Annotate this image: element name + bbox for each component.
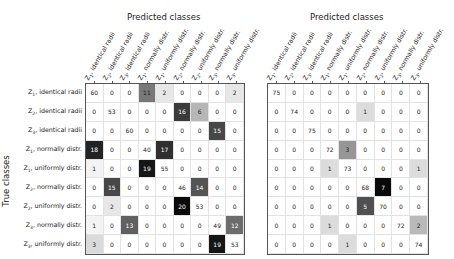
matrix-cell: 0 bbox=[191, 235, 209, 254]
matrix-cell: 6 bbox=[191, 103, 209, 122]
matrix-cell: 0 bbox=[268, 235, 286, 254]
matrix-cell: 0 bbox=[139, 178, 157, 197]
matrix-cell: 0 bbox=[209, 178, 227, 197]
matrix-cell: 1 bbox=[339, 235, 357, 254]
matrix-cell: 0 bbox=[226, 103, 244, 122]
matrix-cell: 19 bbox=[209, 235, 227, 254]
matrix-cell: 0 bbox=[191, 216, 209, 235]
matrix-cell: 0 bbox=[191, 122, 209, 141]
matrix-cell: 0 bbox=[375, 160, 393, 179]
matrix-cell: 0 bbox=[268, 216, 286, 235]
matrix-cell: 0 bbox=[304, 178, 322, 197]
matrix-cell: 0 bbox=[410, 84, 428, 103]
tick-mark bbox=[330, 81, 331, 83]
matrix-cell: 3 bbox=[86, 235, 104, 254]
matrix-cell: 68 bbox=[357, 178, 375, 197]
matrix-cell: 0 bbox=[156, 235, 174, 254]
matrix-cell: 0 bbox=[104, 160, 122, 179]
matrix-cell: 0 bbox=[226, 141, 244, 160]
matrix-cell: 0 bbox=[286, 235, 304, 254]
matrix-cell: 0 bbox=[410, 122, 428, 141]
matrix-cell: 0 bbox=[286, 160, 304, 179]
matrix-cell: 1 bbox=[357, 103, 375, 122]
matrix-cell: 0 bbox=[156, 178, 174, 197]
matrix-cell: 0 bbox=[209, 197, 227, 216]
row-label: Z1, normally distr. bbox=[26, 145, 82, 154]
matrix-cell: 0 bbox=[321, 122, 339, 141]
matrix-cell: 0 bbox=[410, 141, 428, 160]
matrix-cell: 0 bbox=[174, 235, 192, 254]
matrix-cell: 75 bbox=[304, 122, 322, 141]
tick-mark bbox=[348, 81, 349, 83]
matrix-cell: 0 bbox=[357, 216, 375, 235]
matrix-cell: 0 bbox=[392, 178, 410, 197]
matrix-cell: 0 bbox=[286, 122, 304, 141]
matrix-cell: 0 bbox=[286, 141, 304, 160]
matrix-cell: 0 bbox=[392, 235, 410, 254]
y-axis-title: True classes bbox=[1, 155, 11, 207]
matrix-cell: 0 bbox=[104, 141, 122, 160]
matrix-cell: 0 bbox=[174, 141, 192, 160]
row-label: Z3, identical radii bbox=[28, 126, 82, 135]
matrix-cell: 0 bbox=[226, 122, 244, 141]
matrix-cell: 0 bbox=[410, 197, 428, 216]
tick-mark bbox=[402, 81, 403, 83]
matrix-cell: 0 bbox=[410, 178, 428, 197]
matrix-cell: 0 bbox=[174, 216, 192, 235]
matrix-cell: 73 bbox=[339, 160, 357, 179]
matrix-cell: 0 bbox=[174, 84, 192, 103]
matrix-cell: 0 bbox=[321, 103, 339, 122]
matrix-cell: 0 bbox=[104, 216, 122, 235]
matrix-cell: 0 bbox=[392, 122, 410, 141]
matrix-cell: 20 bbox=[174, 197, 192, 216]
x-axis-title: Predicted classes bbox=[127, 12, 200, 22]
row-label: Z2, uniformly distr. bbox=[23, 202, 82, 211]
matrix-cell: 0 bbox=[410, 103, 428, 122]
matrix-cell: 0 bbox=[191, 141, 209, 160]
matrix-cell: 0 bbox=[268, 160, 286, 179]
matrix-cell: 0 bbox=[304, 197, 322, 216]
matrix-cell: 0 bbox=[139, 235, 157, 254]
matrix-cell: 15 bbox=[209, 122, 227, 141]
matrix-cell: 0 bbox=[226, 178, 244, 197]
matrix-cell: 1 bbox=[86, 160, 104, 179]
tick-mark bbox=[183, 81, 184, 83]
matrix-cell: 0 bbox=[375, 122, 393, 141]
matrix-cell: 55 bbox=[156, 160, 174, 179]
matrix-cell: 13 bbox=[121, 216, 139, 235]
matrix-cell: 53 bbox=[191, 197, 209, 216]
matrix-cell: 0 bbox=[375, 84, 393, 103]
matrix-cell: 0 bbox=[156, 122, 174, 141]
row-label: Z2, normally distr. bbox=[26, 183, 82, 192]
matrix-cell: 0 bbox=[321, 84, 339, 103]
matrix-cell: 1 bbox=[321, 160, 339, 179]
matrix-cell: 0 bbox=[209, 141, 227, 160]
matrix-cell: 0 bbox=[268, 141, 286, 160]
matrix-cell: 0 bbox=[191, 84, 209, 103]
matrix-cell: 0 bbox=[104, 235, 122, 254]
matrix-cell: 0 bbox=[357, 141, 375, 160]
tick-mark bbox=[312, 81, 313, 83]
matrix-cell: 2 bbox=[410, 216, 428, 235]
matrix-cell: 0 bbox=[357, 122, 375, 141]
matrix-cell: 0 bbox=[174, 122, 192, 141]
matrix-cell: 0 bbox=[392, 160, 410, 179]
matrix-cell: 0 bbox=[191, 160, 209, 179]
row-label: Z1, uniformly distr. bbox=[23, 164, 82, 173]
matrix-cell: 72 bbox=[392, 216, 410, 235]
matrix-cell: 0 bbox=[357, 84, 375, 103]
tick-mark bbox=[201, 81, 202, 83]
matrix-cell: 0 bbox=[375, 216, 393, 235]
matrix-cell: 0 bbox=[226, 160, 244, 179]
matrix-cell: 0 bbox=[121, 178, 139, 197]
matrix-cell: 0 bbox=[268, 122, 286, 141]
row-label: Z3, uniformly distr. bbox=[23, 240, 82, 249]
tick-mark bbox=[218, 81, 219, 83]
matrix-cell: 0 bbox=[321, 178, 339, 197]
matrix-cell: 0 bbox=[321, 235, 339, 254]
tick-mark bbox=[276, 81, 277, 83]
matrix-cell: 0 bbox=[357, 160, 375, 179]
matrix-cell: 60 bbox=[121, 122, 139, 141]
tick-mark bbox=[112, 81, 113, 83]
matrix-cell: 17 bbox=[156, 141, 174, 160]
